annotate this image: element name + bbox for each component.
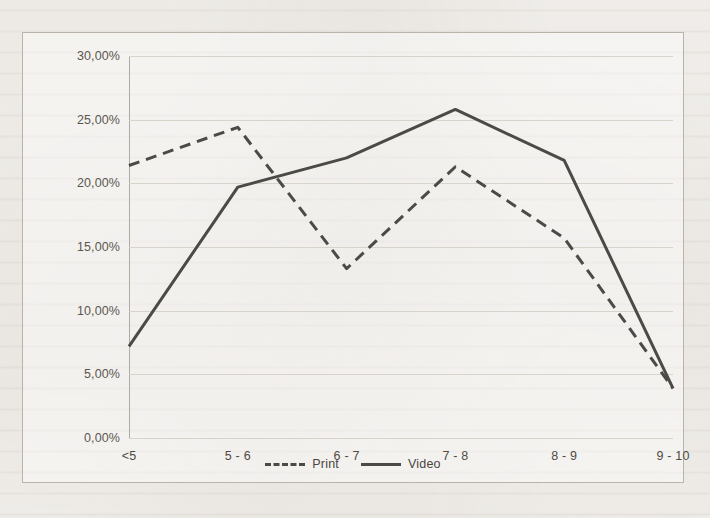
legend-swatch-video: [361, 463, 401, 466]
series-lines: [129, 56, 673, 438]
chart-legend: PrintVideo: [23, 457, 683, 471]
legend-label: Print: [312, 457, 339, 471]
legend-entry-video[interactable]: Video: [361, 457, 441, 471]
series-line-video: [129, 109, 673, 388]
y-axis-tick-label: 5,00%: [84, 367, 120, 381]
chart-frame: 30,00%25,00%20,00%15,00%10,00%5,00%0,00%…: [22, 32, 684, 483]
y-axis-tick-label: 0,00%: [84, 431, 120, 445]
y-axis-tick-label: 20,00%: [77, 176, 120, 190]
y-axis-tick-label: 30,00%: [77, 49, 120, 63]
gridline: [129, 438, 673, 439]
y-axis-tick-label: 25,00%: [77, 113, 120, 127]
legend-entry-print[interactable]: Print: [265, 457, 339, 471]
plot-area: 30,00%25,00%20,00%15,00%10,00%5,00%0,00%…: [129, 56, 673, 438]
y-axis-tick-label: 10,00%: [77, 304, 120, 318]
y-axis-tick-label: 15,00%: [77, 240, 120, 254]
legend-swatch-print: [265, 463, 305, 466]
series-line-print: [129, 127, 673, 388]
legend-label: Video: [408, 457, 441, 471]
